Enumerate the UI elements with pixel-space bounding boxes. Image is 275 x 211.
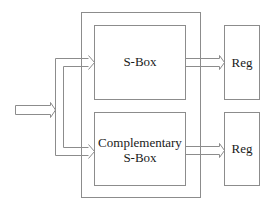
reg-bottom-label: Reg (232, 141, 253, 156)
sbox-output-arrow (186, 56, 225, 70)
comp-sbox-label-line2: S-Box (123, 150, 157, 165)
outer-frame (82, 13, 201, 198)
sbox-label: S-Box (123, 54, 157, 69)
input-arrow (16, 103, 56, 118)
input-split-wires (56, 59, 89, 156)
reg-top-label: Reg (232, 55, 253, 70)
sbox-diagram: S-Box Complementary S-Box Reg Reg (0, 0, 275, 211)
comp-sbox-label-line1: Complementary (98, 135, 182, 150)
comp-sbox-output-arrow (186, 144, 225, 158)
comp-sbox-input-arrowhead (89, 145, 95, 159)
sbox-input-arrowhead (89, 56, 95, 70)
